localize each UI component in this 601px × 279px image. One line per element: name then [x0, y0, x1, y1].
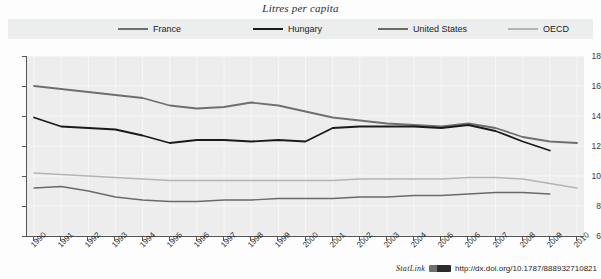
statlink-footer: StatLinkhttp://dx.doi.org/10.1787/888932… — [0, 264, 597, 273]
series-line-united-states — [34, 187, 550, 202]
y-tick-label: 12 — [583, 141, 601, 151]
chart-legend: France Hungary United States OECD — [8, 19, 593, 39]
legend-item-hungary: Hungary — [253, 23, 322, 35]
legend-label-oecd: OECD — [543, 24, 569, 34]
legend-item-france: France — [118, 23, 181, 35]
y-tick-label: 16 — [583, 81, 601, 91]
legend-label-united-states: United States — [413, 24, 467, 34]
legend-item-oecd: OECD — [508, 23, 569, 35]
plot-area — [26, 56, 584, 237]
statlink-url[interactable]: http://dx.doi.org/10.1787/888932710821 — [455, 264, 597, 273]
chart-container: Litres per capita France Hungary United … — [0, 0, 601, 279]
y-tick-label: 8 — [583, 201, 601, 211]
statlink-label: StatLink — [396, 264, 425, 273]
legend-swatch-oecd — [508, 28, 538, 30]
y-tick-label: 10 — [583, 171, 601, 181]
legend-label-hungary: Hungary — [288, 24, 322, 34]
chart-title: Litres per capita — [0, 2, 601, 14]
legend-swatch-united-states — [378, 28, 408, 30]
legend-item-united-states: United States — [378, 23, 467, 35]
statlink-badge-icon — [429, 265, 451, 272]
series-canvas — [27, 56, 584, 236]
legend-swatch-hungary — [253, 28, 283, 30]
y-tick-label: 18 — [583, 51, 601, 61]
y-tick-label: 14 — [583, 111, 601, 121]
legend-swatch-france — [118, 28, 148, 30]
legend-label-france: France — [153, 24, 181, 34]
